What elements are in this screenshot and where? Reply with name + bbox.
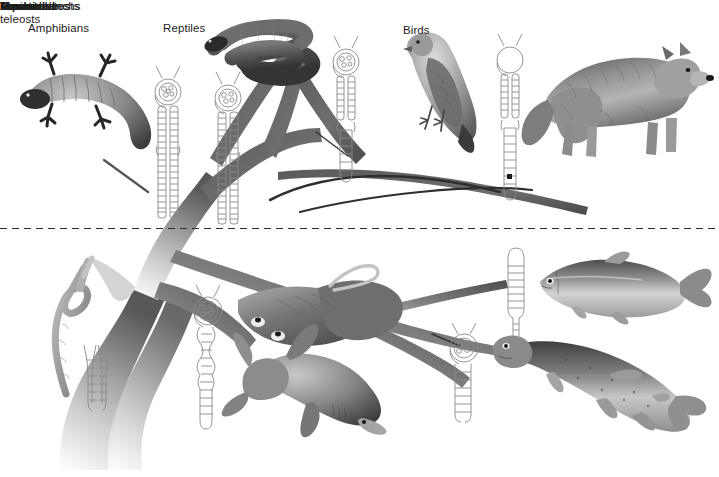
animal-snake [202,26,312,79]
label-freshwater-teleosts: Freshwater teleosts [0,0,59,26]
label-birds: Birds [403,24,430,37]
nephron-marine-teleosts [508,248,524,336]
animal-marine-teleost [540,251,712,324]
animal-wolf [522,42,714,157]
figure-canvas: Amphibians Reptiles Birds Mammals Terres… [0,0,719,477]
animal-freshwater-teleost [493,336,706,432]
animal-ray [238,266,403,346]
nephron-evolution-illustration [0,0,719,477]
animal-bird [403,32,477,152]
nephron-amphibians [155,66,181,218]
nephron-mammals [497,34,523,200]
animal-salamander [20,53,151,149]
label-reptiles: Reptiles [163,22,205,35]
